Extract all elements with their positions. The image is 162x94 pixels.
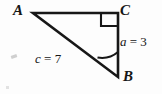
angle-arc-icon bbox=[98, 52, 119, 58]
side-length-label-a: a = 3 bbox=[120, 35, 147, 48]
side-c-equals: = bbox=[44, 51, 51, 66]
vertex-label-b: B bbox=[123, 69, 133, 84]
side-a-equals: = bbox=[130, 34, 137, 49]
side-c-value: 7 bbox=[55, 51, 62, 66]
vertex-label-c: C bbox=[120, 3, 130, 18]
side-c-variable: c bbox=[35, 51, 41, 66]
vertex-label-a: A bbox=[13, 3, 23, 18]
right-angle-marker-icon bbox=[101, 13, 118, 26]
scan-artifact-mark bbox=[6, 86, 9, 89]
triangle-outline bbox=[33, 13, 118, 77]
side-a-variable: a bbox=[120, 34, 127, 49]
side-length-label-c: c = 7 bbox=[35, 52, 61, 65]
right-triangle-figure: A C B a = 3 c = 7 bbox=[0, 0, 162, 94]
side-a-value: 3 bbox=[140, 34, 147, 49]
